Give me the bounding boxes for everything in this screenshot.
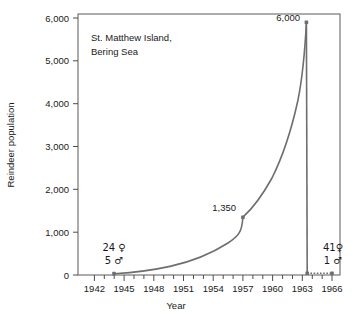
y-tick-label-4000: 4,000	[45, 98, 69, 109]
y-tick-label-2000: 2,000	[45, 184, 69, 195]
y-axis-tick-labels: 6,000 5,000 4,000 3,000 2,000 1,000 0	[45, 13, 69, 281]
x-axis-tick-labels: 1942 1945 1948 1951 1954 1957 1960 1963 …	[84, 283, 343, 294]
data-point-1964-crash[interactable]	[305, 271, 309, 275]
chart-figure: 6,000 5,000 4,000 3,000 2,000 1,000 0	[0, 0, 353, 317]
data-point-1966[interactable]	[330, 271, 334, 275]
x-axis-major-ticks	[94, 275, 332, 281]
annotation-right-line-1: 41♀	[323, 242, 343, 253]
y-axis-title: Reindeer population	[5, 102, 16, 187]
annotation-right-line-2: 1 ♂	[324, 255, 343, 266]
y-tick-label-0: 0	[64, 270, 69, 281]
population-crash-line	[306, 22, 307, 273]
x-tick-label-1948: 1948	[143, 283, 164, 294]
data-point-1957[interactable]	[241, 215, 245, 219]
annotation-left-line-1: 24 ♀	[102, 242, 125, 253]
y-tick-label-6000: 6,000	[45, 13, 69, 24]
x-tick-label-1966: 1966	[321, 283, 342, 294]
x-tick-label-1945: 1945	[114, 283, 135, 294]
x-tick-label-1963: 1963	[292, 283, 313, 294]
annotation-left-line-2: 5 ♂	[105, 255, 124, 266]
x-tick-label-1951: 1951	[173, 283, 194, 294]
y-tick-label-5000: 5,000	[45, 55, 69, 66]
data-point-1944[interactable]	[112, 272, 116, 276]
y-tick-label-1000: 1,000	[45, 227, 69, 238]
y-axis-ticks	[73, 18, 78, 275]
reindeer-population-line-chart: 6,000 5,000 4,000 3,000 2,000 1,000 0	[0, 0, 353, 317]
x-axis-title: Year	[166, 300, 185, 311]
note-line-1: St. Matthew Island,	[91, 32, 172, 43]
x-tick-label-1957: 1957	[232, 283, 253, 294]
data-point-1963-peak[interactable]	[305, 20, 309, 24]
x-tick-label-1960: 1960	[262, 283, 283, 294]
x-tick-label-1954: 1954	[203, 283, 224, 294]
y-tick-label-3000: 3,000	[45, 141, 69, 152]
data-label-1350: 1,350	[212, 202, 236, 213]
x-tick-label-1942: 1942	[84, 283, 105, 294]
note-line-2: Bering Sea	[91, 46, 139, 57]
data-label-peak-6000: 6,000	[276, 12, 300, 23]
